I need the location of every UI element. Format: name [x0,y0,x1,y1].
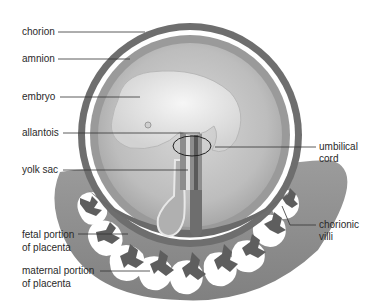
label-yolk-sac: yolk sac [22,164,58,176]
label-amnion: amnion [22,53,55,65]
label-maternal-portion-1: maternal portion [22,265,94,277]
label-chorionic-villi-2: villi [319,231,333,243]
label-fetal-portion-1: fetal portion [22,229,74,241]
label-maternal-portion-2: of placenta [22,278,71,290]
label-embryo: embryo [22,91,55,103]
label-fetal-portion-2: of placenta [22,242,71,254]
label-chorionic-villi-1: chorionic [319,219,359,231]
label-umbilical-cord-2: cord [319,153,338,165]
label-chorion: chorion [22,26,55,38]
label-allantois: allantois [22,127,59,139]
label-umbilical-cord-1: umbilical [319,141,358,153]
embryo-eye [145,122,151,128]
